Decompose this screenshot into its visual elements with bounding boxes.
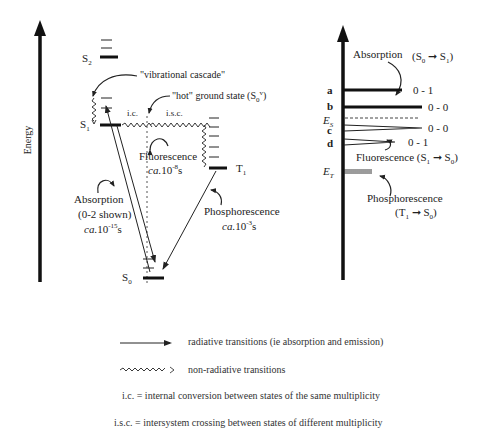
spectrum-absorption-label: Absorption [353,48,403,60]
fluorescence-label: Fluorescence [139,150,197,162]
arrow-up-icon [34,20,46,36]
spectrum-phosphorescence-label: Phosphorescence [367,192,443,204]
et-label: ET [322,165,335,180]
line-d-letter: d [327,137,333,149]
curved-arrow-icon [211,190,221,205]
legend-isc: i.s.c. = intersystem crossing between st… [114,417,382,428]
legend [120,340,174,373]
s1-state: S1 [80,98,121,133]
s2-state: S2 [82,40,118,67]
t1-label: T1 [236,162,247,177]
legend-nonradiative: non-radiative transitions [188,364,285,375]
spectrum-fluorescence-label: Fluorescence (S1 ➞ S0) [356,151,458,166]
line-c-letter: c [327,124,332,136]
ic-label: i.c. [127,108,138,118]
energy-axis-label: Energy [22,126,33,155]
phosphorescence-label: Phosphorescence [204,205,280,217]
line-a-band: 0 - 1 [413,84,433,96]
curved-arrow-icon [98,180,114,193]
line-a-letter: a [327,84,333,96]
isc-label: i.s.c. [166,108,183,118]
absorption-label: Absorption [74,193,124,205]
hot-ground-state-label: "hot" ground state (S0v) [172,89,266,104]
legend-radiative: radiative transitions (ie absorption and… [188,336,383,347]
line-d-band: 0 - 1 [408,136,428,148]
line-c-band: 0 - 0 [428,122,449,134]
nonradiative-wavy-icon [120,368,165,371]
s0-label: S0 [122,271,132,286]
t1-state: T1 [202,118,247,177]
spectrum-phosphorescence-transition: (T1 ➞ S0) [395,206,437,221]
absorption-note: (0-2 shown) [78,208,132,221]
isc-wavy-line [150,123,210,127]
fluorescence-time: ca.10-8s [148,163,182,176]
curved-arrow-icon [93,75,137,96]
absorption-time: ca.10-15s [84,222,122,235]
spectrum-absorption-transition: (S0 ➞ S1) [412,50,453,65]
absorption-arrow [106,106,150,272]
s2-label: S2 [82,52,92,67]
energy-axis: Energy [22,20,46,282]
phosphorescence-time: ca.10-3s [222,219,256,232]
phosphorescence-arrow [163,171,216,269]
line-b-letter: b [327,100,333,112]
spectrum-diagram: Absorption (S0 ➞ S1) a 0 - 1 b 0 - 0 ES … [322,25,458,280]
s0-state: S0 [122,259,164,286]
s1-label: S1 [80,118,90,133]
legend-ic: i.c. = internal conversion between state… [122,390,380,401]
line-b-band: 0 - 0 [428,101,449,113]
curved-arrow-icon [150,139,168,150]
arrow-up-icon [337,25,349,42]
vibrational-cascade-label: "vibrational cascade" [140,69,225,80]
